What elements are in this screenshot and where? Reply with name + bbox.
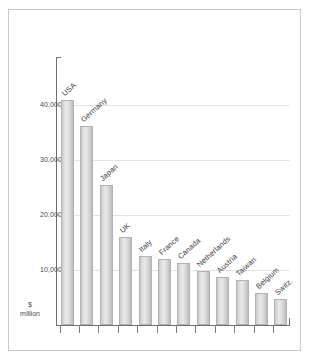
x-tick-3 <box>118 326 119 333</box>
x-tick-4 <box>137 326 138 333</box>
bar-label-uk: UK <box>118 221 132 235</box>
bar-label-switz: Switz. <box>273 276 295 297</box>
bar-uk <box>119 237 132 325</box>
x-tick-10 <box>254 326 255 333</box>
bar-label-germany: Germany <box>79 96 109 124</box>
y-axis-line <box>56 57 57 325</box>
bar-germany <box>80 126 93 325</box>
axis-unit-label: $ million <box>8 300 52 318</box>
x-tick-8 <box>215 326 216 333</box>
x-tick-2 <box>98 326 99 333</box>
x-tick-1 <box>79 326 80 333</box>
bar-chart-figure: 40,000 30,000 20,000 10,000 $ million US… <box>0 0 310 361</box>
bar-belgium <box>255 293 268 325</box>
bar-label-italy: Italy <box>137 238 154 254</box>
bar-label-japan: Japan <box>98 162 120 183</box>
x-tick-6 <box>176 326 177 333</box>
bar-taiwan <box>236 280 249 325</box>
bar-switz <box>274 299 287 325</box>
x-axis-line <box>56 325 290 326</box>
bar-austria <box>216 277 229 325</box>
x-axis-end-tick <box>289 318 290 326</box>
y-tick-label-40000: 40,000 <box>40 101 62 108</box>
x-tick-5 <box>157 326 158 333</box>
axis-unit-currency: $ <box>8 300 52 309</box>
bar-netherlands <box>197 271 210 325</box>
bar-japan <box>100 185 113 325</box>
bar-italy <box>139 256 152 325</box>
x-tick-0 <box>60 326 61 333</box>
x-tick-11 <box>273 326 274 333</box>
bar-label-usa: USA <box>59 81 77 98</box>
bar-usa <box>61 100 74 325</box>
bar-canada <box>177 263 190 325</box>
axis-unit-scale: million <box>8 309 52 318</box>
bar-france <box>158 259 171 325</box>
y-tick-label-20000: 20,000 <box>40 211 62 218</box>
y-tick-label-30000: 30,000 <box>40 156 62 163</box>
plot-area: 40,000 30,000 20,000 10,000 $ million US… <box>0 0 310 361</box>
y-axis-cap <box>56 57 61 58</box>
x-tick-9 <box>234 326 235 333</box>
x-tick-7 <box>195 326 196 333</box>
y-tick-label-10000: 10,000 <box>40 266 62 273</box>
